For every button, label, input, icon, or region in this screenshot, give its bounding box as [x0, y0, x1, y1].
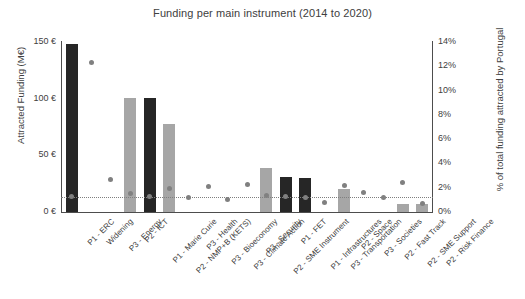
y-axis-left-tick: 150 € [0, 37, 56, 46]
data-point-dot [361, 190, 366, 195]
data-point-dot [420, 201, 425, 206]
y-axis-right-tick: 12% [438, 61, 468, 70]
x-axis-labels: P1 - ERCWideningP3 - EnergyP2 - ICTP1 - … [0, 213, 525, 299]
y-axis-right-tick: 6% [438, 134, 468, 143]
y-axis-right-line [432, 41, 433, 213]
y-axis-right-tick: 10% [438, 86, 468, 95]
bar [338, 189, 350, 212]
bar [260, 168, 272, 212]
data-point-dot [89, 60, 94, 65]
data-point-dot [245, 182, 250, 187]
data-point-dot [400, 180, 405, 185]
data-point-dot [108, 177, 113, 182]
data-point-dot [322, 200, 327, 205]
y-axis-right-tick: 14% [438, 37, 468, 46]
chart-title: Funding per main instrument (2014 to 202… [0, 7, 525, 19]
data-point-dot [342, 183, 347, 188]
bar [397, 204, 409, 212]
chart-container: Funding per main instrument (2014 to 202… [0, 0, 525, 299]
y-axis-left-tick: 100 € [0, 94, 56, 103]
y-axis-right-tick: 2% [438, 183, 468, 192]
y-axis-right-tick: 8% [438, 110, 468, 119]
bar [66, 44, 78, 212]
y-axis-right-tick: 4% [438, 158, 468, 167]
data-point-dot [128, 191, 133, 196]
y-axis-left-tick: 50 € [0, 150, 56, 159]
y-axis-right-title: % of total funding attracted by Portugal [494, 15, 505, 205]
plot-area [62, 42, 432, 212]
data-point-dot [206, 184, 211, 189]
bar [163, 124, 175, 212]
reference-line [61, 197, 433, 198]
